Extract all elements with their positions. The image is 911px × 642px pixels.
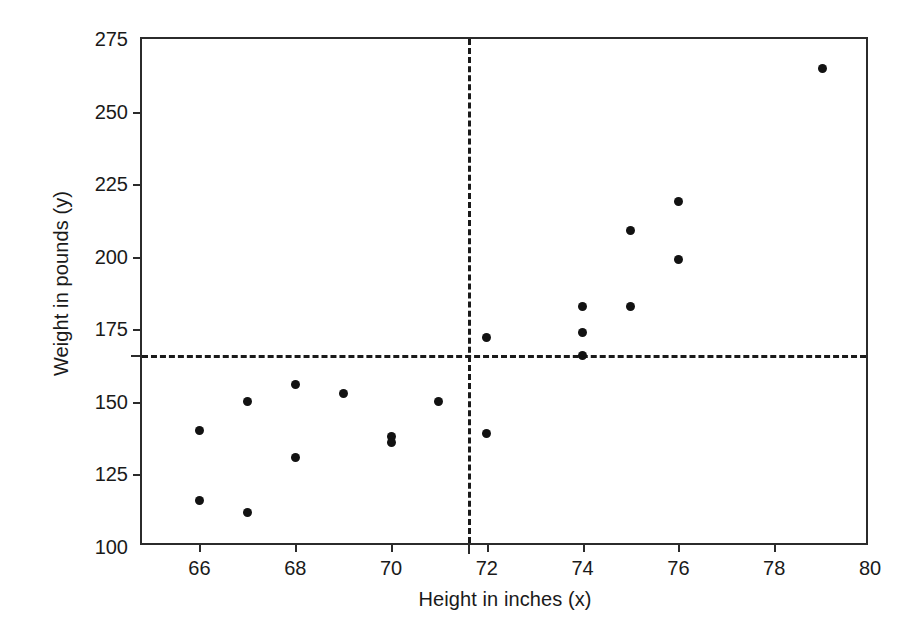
y-axis-title: Weight in pounds (y) [50, 124, 73, 444]
data-point [626, 226, 635, 235]
data-point [626, 302, 635, 311]
y-tick-label: 200 [95, 245, 128, 268]
x-tick-label: 70 [380, 557, 402, 580]
data-point [578, 302, 587, 311]
x-tick-label: 66 [188, 557, 210, 580]
data-point [243, 397, 252, 406]
data-point [195, 496, 204, 505]
x-tick-mark [583, 543, 585, 552]
data-point [578, 328, 587, 337]
y-tick-mark [133, 474, 142, 476]
y-tick-mark [133, 402, 142, 404]
x-tick-label: 68 [284, 557, 306, 580]
x-axis-title: Height in inches (x) [140, 588, 870, 611]
y-tick-label: 125 [95, 463, 128, 486]
data-point [434, 397, 443, 406]
y-tick-mark [133, 112, 142, 114]
data-point [387, 438, 396, 447]
data-point [674, 255, 683, 264]
x-tick-mark [295, 543, 297, 552]
data-point [818, 64, 827, 73]
scatter-plot-figure: Weight in pounds (y) 1001251501752002252… [0, 0, 911, 642]
x-tick-label: 72 [476, 557, 498, 580]
x-tick-mark [391, 543, 393, 552]
data-point [291, 453, 300, 462]
data-point [482, 429, 491, 438]
y-tick-label: 225 [95, 173, 128, 196]
data-point [339, 389, 348, 398]
x-tick-mark [678, 543, 680, 552]
y-tick-mark [133, 257, 142, 259]
y-tick-label: 250 [95, 100, 128, 123]
mean-weight-tick [131, 355, 142, 357]
x-tick-label: 76 [667, 557, 689, 580]
x-tick-mark [487, 543, 489, 552]
x-tick-mark [774, 543, 776, 552]
y-tick-label: 100 [95, 536, 128, 559]
y-tick-label: 275 [95, 28, 128, 51]
x-tick-label: 80 [859, 557, 881, 580]
data-point [578, 351, 587, 360]
y-tick-mark [133, 329, 142, 331]
mean-weight-line [142, 355, 866, 358]
x-tick-label: 78 [763, 557, 785, 580]
plot-area: 100125150175200225250275 666870727476788… [140, 37, 868, 545]
mean-height-line [468, 39, 471, 543]
y-tick-label: 175 [95, 318, 128, 341]
x-tick-mark [199, 543, 201, 552]
x-tick-label: 74 [572, 557, 594, 580]
data-point [195, 426, 204, 435]
data-point [674, 197, 683, 206]
y-tick-mark [133, 184, 142, 186]
mean-height-tick [468, 543, 470, 554]
figure-caption [130, 629, 780, 642]
data-point [243, 508, 252, 517]
data-point [482, 333, 491, 342]
y-tick-label: 150 [95, 390, 128, 413]
data-point [291, 380, 300, 389]
